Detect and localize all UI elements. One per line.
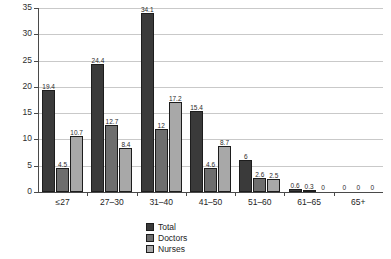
legend-swatch-icon (146, 234, 154, 242)
bar-chart: 05101520253035 19.44.510.724.412.78.434.… (0, 0, 391, 259)
bar-value-label: 0.3 (305, 183, 314, 190)
bar-group: 24.412.78.4 (87, 8, 136, 192)
bar-value-label: 8.4 (121, 141, 130, 148)
bar-value-label: 0.6 (291, 182, 300, 189)
legend-item-total[interactable]: Total (146, 222, 187, 232)
bar-value-label: 12 (158, 122, 165, 129)
bar-total[interactable]: 6 (239, 160, 252, 192)
bar-value-label: 17.2 (169, 95, 182, 102)
x-axis-category-label: 27–30 (87, 197, 136, 211)
y-tick-label: 35 (6, 2, 32, 12)
bar-nurses[interactable]: 8.4 (119, 148, 132, 192)
y-tick-label: 0 (6, 186, 32, 196)
x-axis-category-label: 41–50 (186, 197, 235, 211)
legend-label: Nurses (158, 244, 185, 254)
y-tick-label: 15 (6, 107, 32, 117)
bar-groups: 19.44.510.724.412.78.434.11217.215.44.68… (38, 8, 383, 192)
bar-nurses[interactable]: 10.7 (70, 136, 83, 192)
bar-nurses[interactable]: 2.5 (267, 179, 280, 192)
x-axis-line (38, 192, 383, 193)
bar-nurses[interactable]: 8.7 (218, 146, 231, 192)
bar-value-label: 0 (321, 184, 325, 191)
x-tick-mark (284, 192, 285, 196)
bar-value-label: 2.6 (255, 171, 264, 178)
bar-value-label: 6 (244, 153, 248, 160)
bar-value-label: 24.4 (92, 57, 105, 64)
bar-value-label: 4.6 (206, 161, 215, 168)
x-tick-mark (87, 192, 88, 196)
bar-group: 19.44.510.7 (38, 8, 87, 192)
x-axis-category-label: 65+ (334, 197, 383, 211)
bar-nurses[interactable]: 17.2 (169, 102, 182, 192)
y-tick-label: 30 (6, 28, 32, 38)
bar-value-label: 15.4 (190, 104, 203, 111)
bar-value-label: 10.7 (70, 129, 83, 136)
y-tick-label: 25 (6, 55, 32, 65)
bar-value-label: 2.5 (269, 172, 278, 179)
bar-value-label: 19.4 (42, 83, 55, 90)
bar-group: 34.11217.2 (137, 8, 186, 192)
bar-total[interactable]: 19.4 (42, 90, 55, 192)
bar-doctors[interactable]: 12 (155, 129, 168, 192)
bar-total[interactable]: 15.4 (190, 111, 203, 192)
bar-total[interactable]: 24.4 (91, 64, 104, 192)
bar-doctors[interactable]: 4.6 (204, 168, 217, 192)
bar-value-label: 12.7 (106, 118, 119, 125)
y-tick-label: 20 (6, 81, 32, 91)
y-tick-label: 5 (6, 160, 32, 170)
bar-group: 000 (334, 8, 383, 192)
bar-group: 62.62.5 (235, 8, 284, 192)
bar-value-label: 0 (371, 184, 375, 191)
x-tick-mark (235, 192, 236, 196)
x-tick-mark (137, 192, 138, 196)
legend-swatch-icon (146, 245, 154, 253)
x-axis-category-label: 31–40 (137, 197, 186, 211)
bar-doctors[interactable]: 12.7 (105, 125, 118, 192)
chart-legend: TotalDoctorsNurses (146, 222, 187, 254)
x-tick-mark (334, 192, 335, 196)
bar-value-label: 0 (357, 184, 361, 191)
legend-label: Total (158, 222, 176, 232)
plot-area: 05101520253035 19.44.510.724.412.78.434.… (38, 8, 383, 192)
bar-doctors[interactable]: 2.6 (253, 178, 266, 192)
legend-item-doctors[interactable]: Doctors (146, 233, 187, 243)
bar-group: 0.60.30 (284, 8, 333, 192)
bar-value-label: 8.7 (220, 139, 229, 146)
legend-swatch-icon (146, 223, 154, 231)
x-tick-mark (186, 192, 187, 196)
legend-label: Doctors (158, 233, 187, 243)
x-axis-labels: ≤2727–3031–4041–5051–6061–6565+ (38, 197, 383, 211)
y-tick-label: 10 (6, 133, 32, 143)
bar-total[interactable]: 34.1 (141, 13, 154, 192)
x-axis-category-label: ≤27 (38, 197, 87, 211)
bar-group: 15.44.68.7 (186, 8, 235, 192)
bar-value-label: 34.1 (141, 6, 154, 13)
bar-value-label: 4.5 (58, 161, 67, 168)
x-axis-category-label: 61–65 (284, 197, 333, 211)
x-axis-category-label: 51–60 (235, 197, 284, 211)
y-axis-line (38, 8, 39, 192)
bar-value-label: 0 (343, 184, 347, 191)
legend-item-nurses[interactable]: Nurses (146, 244, 187, 254)
bar-doctors[interactable]: 4.5 (56, 168, 69, 192)
